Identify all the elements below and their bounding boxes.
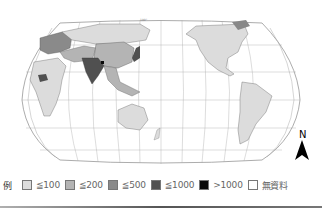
legend-swatch — [22, 180, 32, 190]
world-map: 180° — [0, 0, 322, 170]
bottom-divider — [0, 206, 322, 208]
legend-label: ≦1000 — [165, 180, 194, 190]
legend-item-no-data: 無資料 — [248, 179, 288, 192]
legend-item-le100: ≦100 — [22, 180, 60, 190]
legend-label: 無資料 — [262, 179, 288, 192]
legend-label: ≦200 — [79, 180, 103, 190]
svg-text:180°: 180° — [140, 18, 148, 22]
legend-swatch — [108, 180, 118, 190]
legend-item-le500: ≦500 — [108, 180, 146, 190]
legend-swatch — [65, 180, 75, 190]
legend-item-le1000: ≦1000 — [151, 180, 194, 190]
north-label: N — [299, 129, 306, 140]
legend-swatch — [151, 180, 161, 190]
legend-item-le200: ≦200 — [65, 180, 103, 190]
region-bangladesh — [101, 61, 104, 64]
legend-swatch — [199, 180, 209, 190]
legend: 例 ≦100 ≦200 ≦500 ≦1000 >1000 無資料 — [3, 178, 293, 192]
legend-swatch — [248, 180, 258, 190]
north-arrow: N — [290, 128, 314, 162]
legend-label: ≦500 — [122, 180, 146, 190]
legend-title: 例 — [3, 179, 12, 192]
legend-label: ≦100 — [36, 180, 60, 190]
legend-item-gt1000: >1000 — [199, 180, 242, 190]
legend-label: >1000 — [213, 180, 242, 190]
